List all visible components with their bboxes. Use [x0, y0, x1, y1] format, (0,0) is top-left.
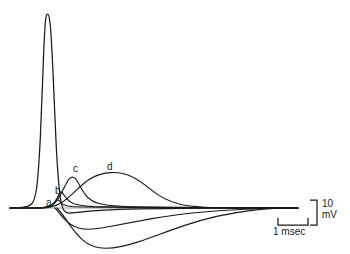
voltage-scale-unit: mV	[322, 209, 337, 220]
trace-response-b	[10, 192, 298, 208]
trace-undershoot-deep	[57, 208, 298, 248]
curve-label-d: d	[107, 162, 113, 172]
trace-action-potential	[10, 14, 298, 213]
curve-label-b: b	[55, 186, 61, 196]
trace-response-d	[10, 172, 298, 208]
voltage-scale-bar	[310, 200, 317, 225]
trace-plot-canvas	[0, 0, 350, 254]
voltage-scale-label: 10 mV	[322, 198, 337, 220]
curve-label-c: c	[73, 164, 78, 174]
curve-label-a: a	[46, 198, 52, 208]
time-scale-bar	[278, 218, 308, 225]
electrophysiology-figure: a b c d 10 mV 1 msec	[0, 0, 350, 254]
time-scale-label: 1 msec	[273, 226, 305, 237]
voltage-scale-value: 10	[322, 198, 337, 209]
